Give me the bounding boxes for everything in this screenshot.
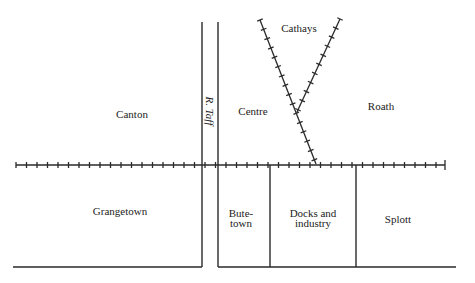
district-label-canton: Canton <box>116 109 148 119</box>
district-label-docks: Docks and industry <box>290 208 337 228</box>
butetown-line2: town <box>229 218 253 228</box>
district-label-grangetown: Grangetown <box>93 206 147 216</box>
district-label-cathays: Cathays <box>281 23 316 33</box>
river-label-taff: R. Taff <box>204 97 216 126</box>
district-label-centre: Centre <box>238 106 267 116</box>
cardiff-district-map <box>0 0 475 283</box>
district-label-roath: Roath <box>368 101 394 111</box>
district-label-splott: Splott <box>385 214 411 224</box>
district-label-butetown: Bute- town <box>229 208 253 228</box>
railway-lines <box>16 18 445 170</box>
docks-line2: industry <box>290 218 337 228</box>
